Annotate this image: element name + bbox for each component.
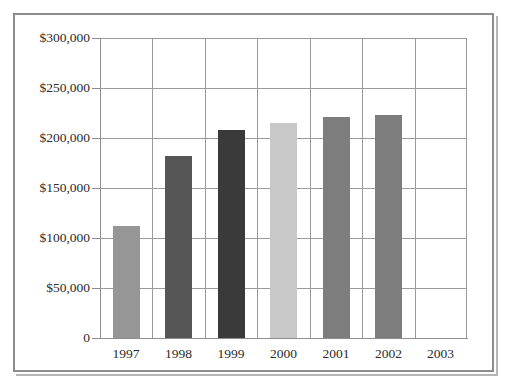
gridline-vertical-5 [362, 38, 363, 338]
x-axis-labels: 1997 1998 1999 2000 2001 2002 2003 [100, 346, 468, 370]
y-axis-tick-mark-100000 [92, 238, 100, 239]
y-axis-tick-mark-150000 [92, 188, 100, 189]
bar-2001 [323, 117, 350, 338]
y-axis-labels: $300,000 $250,000 $200,000 $150,000 $100… [0, 0, 90, 389]
y-axis-tick-label-150000: $150,000 [4, 181, 90, 195]
bar-1999 [218, 130, 245, 338]
y-axis-tick-mark-250000 [92, 88, 100, 89]
gridline-vertical-7 [466, 38, 467, 338]
x-axis-tick-label-1997: 1997 [100, 346, 152, 362]
x-axis-line [100, 338, 468, 339]
x-axis-tick-label-2000: 2000 [257, 346, 310, 362]
y-axis-tick-mark-0 [92, 338, 100, 339]
bar-1997 [113, 226, 140, 338]
y-axis-tick-label-100000: $100,000 [4, 231, 90, 245]
gridline-horizontal-250000 [100, 88, 467, 89]
x-axis-tick-label-2001: 2001 [310, 346, 362, 362]
bar-chart-figure: $300,000 $250,000 $200,000 $150,000 $100… [0, 0, 512, 389]
bar-2002 [375, 115, 402, 338]
y-axis-tick-label-300000: $300,000 [4, 31, 90, 45]
gridline-vertical-6 [415, 38, 416, 338]
gridline-vertical-3 [257, 38, 258, 338]
y-axis-tick-label-50000: $50,000 [4, 281, 90, 295]
gridline-vertical-1 [152, 38, 153, 338]
y-axis-tick-label-0: 0 [4, 331, 90, 345]
plot-area [100, 38, 467, 338]
y-axis-tick-mark-200000 [92, 138, 100, 139]
gridline-vertical-2 [205, 38, 206, 338]
y-axis-tick-label-250000: $250,000 [4, 81, 90, 95]
gridline-vertical-4 [310, 38, 311, 338]
gridline-horizontal-300000 [100, 38, 467, 39]
bar-2000 [270, 123, 297, 338]
y-axis-tick-mark-50000 [92, 288, 100, 289]
x-axis-tick-label-2002: 2002 [362, 346, 415, 362]
y-axis-tick-label-200000: $200,000 [4, 131, 90, 145]
x-axis-tick-label-1998: 1998 [152, 346, 205, 362]
x-axis-tick-label-2003: 2003 [415, 346, 466, 362]
x-axis-tick-label-1999: 1999 [205, 346, 257, 362]
y-axis-tick-mark-300000 [92, 38, 100, 39]
bar-1998 [165, 156, 192, 338]
